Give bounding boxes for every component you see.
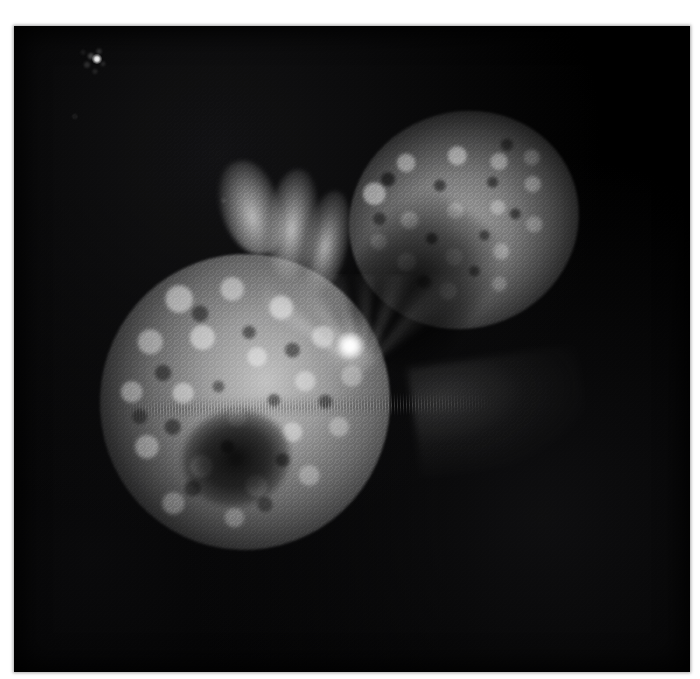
- foreground-field-star: [92, 54, 102, 64]
- page-root: [0, 0, 700, 679]
- central-bright-source: [335, 332, 365, 360]
- astronomical-image-plate: [14, 26, 690, 672]
- bipolar-nebula: [14, 26, 690, 672]
